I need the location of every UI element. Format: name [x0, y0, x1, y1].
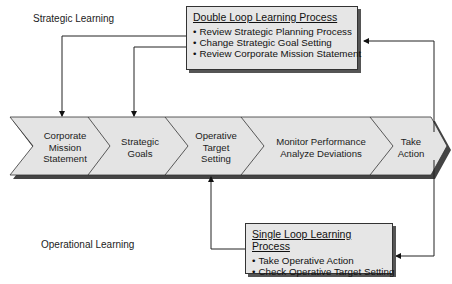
double-loop-item: Change Strategic Goal Setting [193, 37, 351, 48]
step-monitor-performance: Monitor Performance Analyze Deviations [266, 136, 376, 159]
double-loop-item: Review Strategic Planning Process [193, 26, 351, 37]
step-strategic-goals: Strategic Goals [110, 136, 170, 159]
double-loop-box: Double Loop Learning Process Review Stra… [186, 6, 358, 70]
single-loop-item: Take Operative Action [252, 255, 386, 266]
operational-learning-label: Operational Learning [41, 239, 134, 250]
strategic-learning-label: Strategic Learning [33, 13, 114, 24]
single-loop-title: Single Loop Learning Process [252, 228, 386, 252]
connector-double-loop-to-goals [134, 47, 186, 116]
connector-single-loop-to-target [211, 177, 245, 249]
double-loop-item: Review Corporate Mission Statement [193, 48, 351, 59]
step-operative-target: Operative Target Setting [186, 130, 246, 165]
single-loop-item: Check Operative Target Setting [252, 266, 386, 277]
step-take-action: Take Action [392, 136, 430, 159]
connector-double-loop-to-mission [62, 36, 186, 116]
step-corporate-mission: Corporate Mission Statement [34, 130, 96, 165]
single-loop-box: Single Loop Learning Process Take Operat… [245, 223, 393, 274]
double-loop-title: Double Loop Learning Process [193, 11, 351, 23]
